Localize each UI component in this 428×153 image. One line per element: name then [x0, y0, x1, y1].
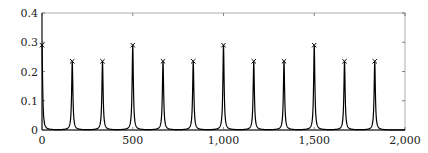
chart: 00.10.20.30.4 05001,0001,5002,000	[0, 0, 428, 153]
y-tick-label: 0.2	[21, 66, 39, 79]
x-tick-label: 1,000	[208, 134, 240, 147]
y-tick-label: 0.4	[21, 7, 39, 20]
x-tick-label: 2,000	[389, 134, 421, 147]
x-tick-label: 1,500	[299, 134, 331, 147]
y-axis-ticks: 00.10.20.30.4	[21, 7, 406, 137]
x-tick-label: 0	[39, 134, 46, 147]
x-axis-ticks: 05001,0001,5002,000	[39, 13, 421, 147]
y-tick-label: 0	[31, 124, 38, 137]
spectrum-line	[42, 45, 405, 130]
plot-area: 00.10.20.30.4 05001,0001,5002,000	[21, 7, 421, 147]
y-tick-label: 0.1	[21, 95, 39, 108]
x-tick-label: 500	[122, 134, 143, 147]
y-tick-label: 0.3	[21, 36, 39, 49]
peak-markers	[40, 43, 377, 63]
